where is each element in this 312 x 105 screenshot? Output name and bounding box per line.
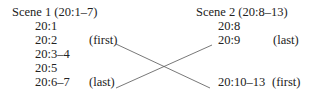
connector-lines	[0, 0, 312, 105]
connector-last	[116, 45, 212, 88]
